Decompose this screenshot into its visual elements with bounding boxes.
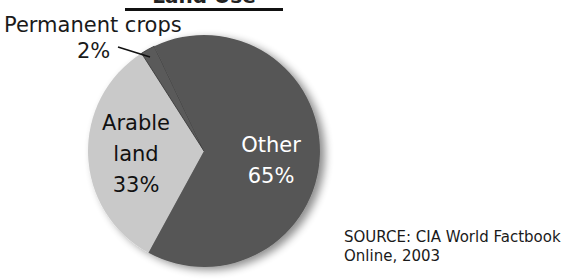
other-value: 65% — [226, 161, 316, 192]
permanent-crops-label: Permanent crops — [4, 13, 182, 37]
arable-label-line2: land — [90, 139, 182, 170]
arable-value: 33% — [90, 170, 182, 201]
arable-land-label: Arable land 33% — [90, 108, 182, 201]
source-note: SOURCE: CIA World Factbook Online, 2003 — [344, 228, 561, 266]
arable-label-line1: Arable — [90, 108, 182, 139]
source-line2: Online, 2003 — [344, 247, 561, 266]
source-line1: SOURCE: CIA World Factbook — [344, 228, 561, 247]
other-label-name: Other — [226, 130, 316, 161]
permanent-crops-value: 2% — [77, 39, 110, 63]
other-label: Other 65% — [226, 130, 316, 192]
